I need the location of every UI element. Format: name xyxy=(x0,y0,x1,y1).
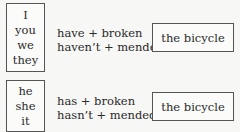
pronoun: she xyxy=(15,99,35,114)
object-box-plural: the bicycle xyxy=(152,23,234,52)
object-label: the bicycle xyxy=(161,31,224,45)
verb-forms-plural: have + broken haven’t + mended xyxy=(57,26,164,54)
object-box-singular: the bicycle xyxy=(152,92,234,121)
object-label: the bicycle xyxy=(161,100,224,114)
pronoun: I xyxy=(23,8,28,23)
pronoun-box-plural: I you we they xyxy=(6,3,45,72)
pronoun: they xyxy=(13,53,38,68)
pronoun: it xyxy=(21,114,29,129)
pronoun: he xyxy=(18,84,32,99)
verb-forms-singular: has + broken hasn’t + mended xyxy=(57,94,156,122)
pronoun: we xyxy=(17,38,34,53)
verb-form: have + broken xyxy=(57,26,164,40)
pronoun-box-singular: he she it xyxy=(6,80,45,132)
verb-form: hasn’t + mended xyxy=(57,108,156,122)
verb-form: haven’t + mended xyxy=(57,40,164,54)
verb-form: has + broken xyxy=(57,94,156,108)
pronoun: you xyxy=(15,23,36,38)
